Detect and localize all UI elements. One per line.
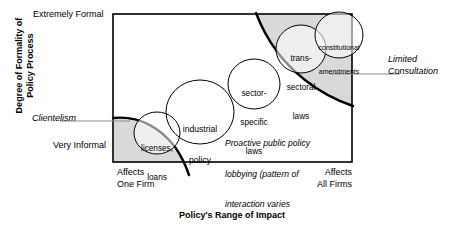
y-axis-title-line1: Degree of Formality of [14, 3, 25, 129]
bubble-industrial-policy-line1: industrial [172, 124, 228, 134]
proactive-lobbying-annotation-line3: interaction varies [225, 199, 350, 209]
policy-matrix-figure: Degree of Formality of Policy Process Ex… [0, 0, 454, 227]
y-axis-min-label: Very Informal [53, 140, 106, 151]
y-axis-max-label: Extremely Formal [33, 9, 104, 20]
bubble-constitutional-amendments-line1: constitutional [308, 44, 370, 52]
limited-consultation-label-line2: Consultation [388, 66, 438, 77]
bubble-industrial-policy-line2: policy [172, 155, 228, 165]
y-axis-title-line2: Policy Process [25, 3, 36, 129]
bubble-label-constitutional-amendments: constitutional amendments [308, 27, 370, 93]
bubble-constitutional-amendments-line2: amendments [308, 68, 370, 76]
proactive-lobbying-annotation-line1: Proactive public policy [225, 138, 350, 148]
y-axis-title: Degree of Formality of Policy Process [14, 3, 35, 129]
proactive-lobbying-annotation: Proactive public policy lobbying (patter… [225, 118, 350, 227]
proactive-lobbying-annotation-line2: lobbying (pattern of [225, 169, 350, 179]
clientelism-label: Clientelism [32, 113, 76, 124]
bubble-label-industrial-policy: industrial policy [172, 104, 228, 185]
bubble-sector-specific-laws-line1: sector- [229, 89, 279, 99]
limited-consultation-label-line1: Limited [388, 54, 417, 65]
